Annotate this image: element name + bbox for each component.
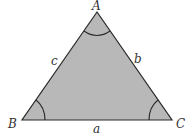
vertex-label-a: A <box>91 0 101 13</box>
side-label-b: b <box>134 52 142 66</box>
side-label-c: c <box>51 54 58 68</box>
triangle-shape <box>22 12 172 120</box>
triangle-figure: A B C a b c <box>0 0 194 137</box>
vertex-label-b: B <box>7 117 17 131</box>
side-label-a: a <box>93 122 100 136</box>
vertex-label-c: C <box>176 117 185 131</box>
triangle-diagram: A B C a b c <box>0 0 194 137</box>
